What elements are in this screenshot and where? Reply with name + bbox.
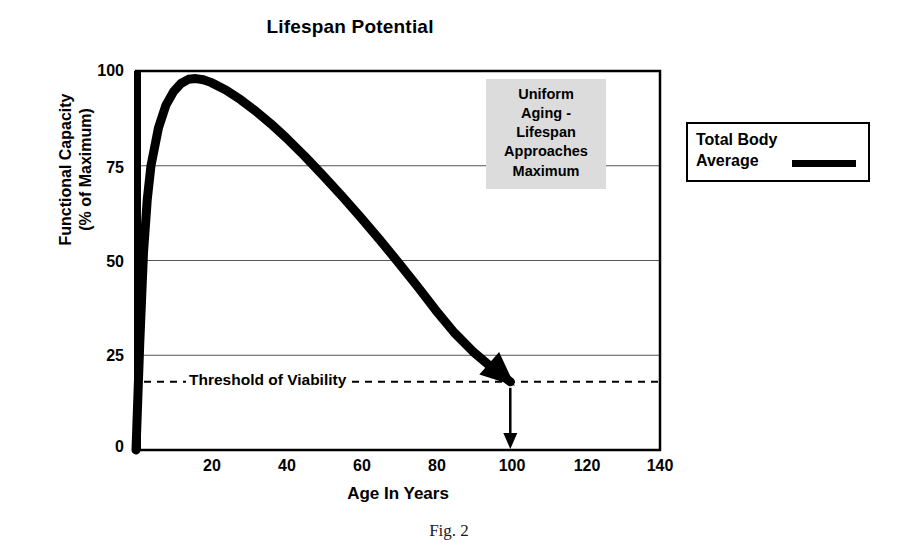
threshold-of-viability-label: Threshold of Viability <box>186 371 349 389</box>
plot-area <box>0 0 898 558</box>
lifespan-endpoint-arrow-icon <box>503 433 517 449</box>
figure-root: Lifespan Potential Functional Capacity (… <box>0 0 898 558</box>
figure-caption: Fig. 2 <box>0 521 898 541</box>
annotation-uniform-aging: Uniform Aging - Lifespan Approaches Maxi… <box>486 79 606 189</box>
series-line-total-body-average <box>136 79 510 450</box>
legend: Total Body Average <box>686 122 870 182</box>
legend-entry-label: Total Body Average <box>696 130 777 172</box>
legend-line-swatch <box>792 160 856 167</box>
